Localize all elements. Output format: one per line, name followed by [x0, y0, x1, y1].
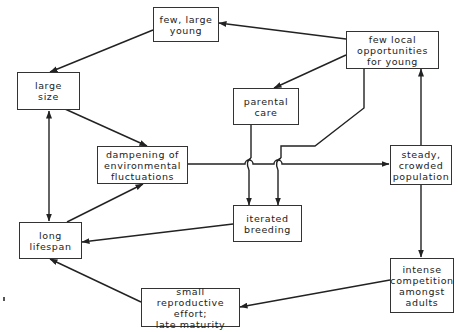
edge-opps-to-care	[274, 55, 346, 88]
node-small-reproductive-effort: small reproductive effort; late maturity	[141, 288, 240, 327]
node-few-large-young: few, large young	[153, 7, 219, 42]
edge-opps-to-young	[219, 23, 346, 39]
edge-repro-to-lifespan	[50, 259, 141, 302]
edge-dampening-to-steady	[187, 160, 389, 164]
node-large-size: large size	[17, 72, 80, 110]
edge-young-to-size	[50, 30, 153, 72]
node-intense-competition: intense competition amongst adults	[390, 258, 454, 313]
edge-care-to-iterated	[249, 124, 251, 205]
edge-iterated-to-lifespan	[82, 224, 233, 242]
node-few-local-opportunities: few local opportunities for young	[346, 31, 439, 69]
node-iterated-breeding: iterated breeding	[233, 205, 302, 242]
node-long-lifespan: long lifespan	[19, 222, 82, 259]
node-steady-crowded-population: steady, crowded population	[390, 145, 452, 185]
node-parental-care: parental care	[233, 88, 299, 125]
scan-artifact	[3, 297, 5, 301]
edge-lifespan-to-dampening	[67, 184, 143, 222]
edge-competition-to-repro	[240, 280, 390, 307]
node-dampening: dampening of environmental fluctuations	[97, 146, 188, 184]
edge-size-to-dampening	[65, 109, 147, 146]
